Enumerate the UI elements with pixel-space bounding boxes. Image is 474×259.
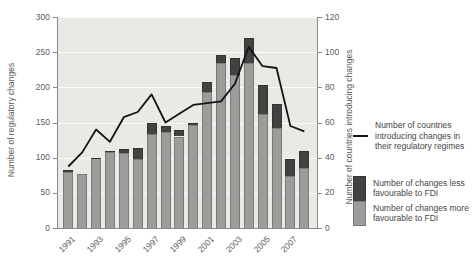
line-swatch-icon xyxy=(353,135,368,138)
legend-item-more-favourable: Number of changes more favourable to FDI xyxy=(353,201,473,226)
legend-item-less-favourable: Number of changes less favourable to FDI xyxy=(353,176,473,201)
legend-label-countries: Number of countries introducing changes … xyxy=(375,120,471,152)
legend-item-countries-line: Number of countries introducing changes … xyxy=(353,120,473,152)
dark-square-swatch-icon xyxy=(353,176,366,201)
fdi-regulatory-changes-chart: 0501001502002503000204060801001201991199… xyxy=(0,0,474,259)
left-axis-title: Number of regulatory changes xyxy=(6,63,16,177)
countries-line xyxy=(68,47,304,167)
legend-label-more-favourable: Number of changes more favourable to FDI xyxy=(373,203,469,224)
legend: Number of countries introducing changes … xyxy=(353,120,473,226)
legend-stacked-swatches: Number of changes less favourable to FDI… xyxy=(353,176,473,226)
legend-label-less-favourable: Number of changes less favourable to FDI xyxy=(373,178,469,199)
light-square-swatch-icon xyxy=(353,201,366,226)
